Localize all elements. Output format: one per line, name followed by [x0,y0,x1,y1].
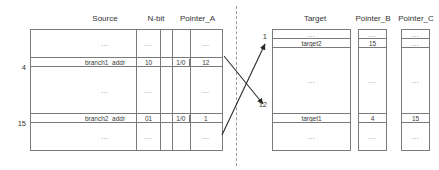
column-title-target: Target [275,14,355,23]
cell-value: ... [137,40,160,47]
cell-flag: 1/0 [173,59,190,66]
index-label-source-branch2: 15 [10,120,26,128]
table-row: ... [137,67,160,113]
table-row-ptrb-1: 15 [359,38,386,48]
table-pointer-b: ... 15 ... 4 ... [358,29,387,151]
cell-value: ... [273,31,350,38]
column-title-pointer-c: Pointer_C [392,14,439,23]
cell-value: ... [273,133,350,140]
cell-value: 01 [137,115,160,122]
pointer-a-divider [190,30,191,150]
cell-value: ... [402,31,429,38]
cell-value: ... [137,133,160,140]
index-label-target-target1: 12 [251,101,267,109]
cell-value: 10 [137,59,160,66]
table-row: ... [359,123,386,150]
cell-value: 12 [190,59,222,66]
cell-value: ... [402,40,429,47]
column-title-pointer-b: Pointer_B [349,14,397,23]
table-nbit: ... 10 ... 01 ... [136,29,161,151]
table-row-ptrc-1: ... [402,38,429,48]
cell-value: ... [190,87,222,94]
table-row: ... [173,67,222,113]
table-row: ... [137,123,160,150]
cell-value: 15 [359,40,386,47]
table-row: ... [273,123,350,150]
table-row-nbit-15: 01 [137,113,160,123]
table-row: ... [173,123,222,150]
cell-value: ... [190,133,222,140]
cell-value: target2 [273,40,350,47]
table-row: ... [273,30,350,38]
cell-value: ... [359,133,386,140]
section-divider [236,6,237,166]
cell-value: 4 [359,115,386,122]
table-row-nbit-4: 10 [137,57,160,67]
cell-value: ... [359,31,386,38]
cell-value: ... [402,77,429,84]
table-row: ... [402,48,429,113]
table-pointer-a: ... 1/0 12 ... 1/0 1 ... [172,29,223,151]
cell-value: ... [137,87,160,94]
table-row-target1: target1 [273,113,350,123]
diagram-canvas: Source ... branch1_addr ... branch2_addr… [0,0,439,170]
table-row-target2: target2 [273,38,350,48]
index-label-source-branch1: 4 [14,64,26,72]
table-row-ptrc-12: 15 [402,113,429,123]
arrow-down-right-icon [224,56,263,104]
table-pointer-c: ... ... ... 15 ... [401,29,430,151]
table-row-ptrb-12: 4 [359,113,386,123]
cell-value: 1 [190,115,222,122]
table-row: ... [359,48,386,113]
table-row: ... [402,30,429,38]
index-label-target-target2: 1 [255,33,267,41]
cell-value: ... [402,133,429,140]
table-row: ... [137,30,160,57]
cell-value: ... [273,77,350,84]
table-row: ... [359,30,386,38]
table-row-ptra-4: 1/0 12 [173,57,222,67]
cell-value: 15 [402,115,429,122]
table-row-ptra-15: 1/0 1 [173,113,222,123]
table-row: ... [402,123,429,150]
cell-flag: 1/0 [173,115,190,122]
arrow-up-right-icon [222,44,265,135]
table-row: ... [173,30,222,57]
table-target: ... target2 ... target1 ... [272,29,351,151]
cell-value: ... [190,40,222,47]
cell-value: ... [359,77,386,84]
cell-value: target1 [273,115,350,122]
column-title-pointer-a: Pointer_A [165,14,230,23]
table-row: ... [273,48,350,113]
